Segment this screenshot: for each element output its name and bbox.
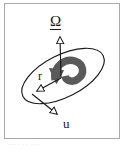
r-label: r — [38, 70, 42, 82]
caption-fragment: ···· ·· ··· — [8, 142, 118, 149]
figure-root: Ω r u ···· ·· ··· — [0, 0, 126, 151]
orbit-ellipse — [13, 37, 112, 115]
u-label: u — [63, 117, 70, 130]
vector-diagram-svg — [5, 4, 119, 138]
omega-label: Ω — [50, 14, 61, 29]
rotation-direction-arrow — [50, 60, 83, 83]
omega-vector-underline — [50, 29, 61, 30]
diagram-frame — [4, 3, 120, 139]
